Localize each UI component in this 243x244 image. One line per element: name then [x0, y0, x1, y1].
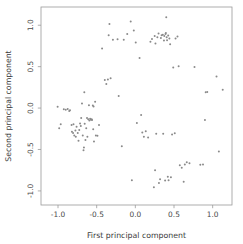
data-point: [85, 127, 87, 129]
data-point: [154, 169, 156, 171]
data-point: [117, 38, 119, 40]
data-point: [94, 101, 96, 103]
data-point: [156, 36, 158, 38]
data-point: [107, 78, 109, 80]
data-point: [84, 139, 86, 141]
data-point: [175, 37, 177, 39]
data-point: [162, 133, 164, 135]
data-point: [118, 95, 120, 97]
data-point: [174, 132, 176, 134]
data-point: [88, 104, 90, 106]
data-point: [69, 109, 71, 111]
data-point: [126, 33, 128, 35]
plot-canvas: -1.0-0.50.00.51.0 -1.0-0.50.00.51.0 Firs…: [0, 0, 243, 244]
data-point: [86, 136, 88, 138]
data-point: [83, 91, 85, 93]
data-point: [80, 117, 82, 119]
data-point: [73, 134, 75, 136]
x-tick-label: -1.0: [51, 210, 66, 219]
data-point: [171, 134, 173, 136]
data-point: [110, 77, 112, 79]
data-point: [57, 106, 59, 108]
data-point: [141, 132, 143, 134]
data-point: [216, 76, 218, 78]
data-point: [154, 42, 156, 44]
data-point: [105, 83, 107, 85]
data-point: [218, 151, 220, 153]
data-point: [170, 176, 172, 178]
data-point: [159, 178, 161, 180]
data-point: [79, 122, 81, 124]
data-point: [153, 186, 155, 188]
data-point: [158, 33, 160, 35]
data-point: [108, 23, 110, 25]
data-point: [158, 182, 160, 184]
data-point: [160, 37, 162, 39]
data-point: [84, 123, 86, 125]
data-point: [147, 136, 149, 138]
data-point: [162, 34, 164, 36]
data-point: [163, 35, 165, 37]
data-point: [169, 43, 171, 45]
data-point: [80, 125, 82, 127]
data-point: [179, 164, 181, 166]
data-point: [81, 103, 83, 105]
data-point: [178, 65, 180, 67]
data-point: [186, 161, 188, 163]
data-point: [65, 109, 67, 111]
y-tick-label: 0.5: [26, 60, 35, 72]
data-point: [78, 129, 80, 131]
data-point: [96, 135, 98, 137]
data-point: [82, 134, 84, 136]
data-point: [188, 162, 190, 164]
y-tick-label: -1.0: [26, 183, 35, 198]
y-tick-label: 1.0: [26, 19, 35, 31]
data-point: [93, 141, 95, 143]
data-point: [75, 136, 77, 138]
data-point: [166, 36, 168, 38]
data-point: [123, 39, 125, 41]
data-point: [131, 179, 133, 181]
x-tick-label: 1.0: [207, 210, 219, 219]
data-point: [72, 132, 74, 134]
data-point: [63, 108, 65, 110]
scatter-plot-figure: -1.0-0.50.00.51.0 -1.0-0.50.00.51.0 Firs…: [0, 0, 243, 244]
data-point: [133, 30, 135, 32]
data-point: [74, 129, 76, 131]
y-axis-title: Second principal component: [4, 50, 13, 161]
data-point: [176, 35, 178, 37]
x-axis-title: First principal component: [87, 231, 186, 240]
data-point: [167, 176, 169, 178]
data-point: [143, 136, 145, 138]
data-point: [202, 163, 204, 165]
data-point: [165, 32, 167, 34]
data-point: [181, 167, 183, 169]
data-point: [112, 39, 114, 41]
data-point: [183, 181, 185, 183]
y-tick-label: -0.5: [26, 142, 35, 157]
data-point: [172, 66, 174, 68]
data-point: [222, 89, 224, 91]
data-point: [168, 179, 170, 181]
data-point: [206, 91, 208, 93]
data-point: [77, 132, 79, 134]
data-point: [101, 47, 103, 49]
data-point: [184, 163, 186, 165]
data-point: [72, 123, 74, 125]
data-point: [140, 114, 142, 116]
data-point: [151, 38, 153, 40]
data-point: [136, 122, 138, 124]
data-point: [167, 35, 169, 37]
x-tick-label: 0.5: [168, 210, 180, 219]
data-point: [83, 149, 85, 151]
data-point: [93, 105, 95, 107]
x-tick-label: -0.5: [89, 210, 104, 219]
data-point: [166, 39, 168, 41]
data-point: [155, 133, 157, 135]
data-point: [135, 42, 137, 44]
data-point: [104, 79, 106, 81]
data-point: [92, 128, 94, 130]
data-point: [78, 140, 80, 142]
data-point: [98, 124, 100, 126]
data-point: [60, 123, 62, 125]
